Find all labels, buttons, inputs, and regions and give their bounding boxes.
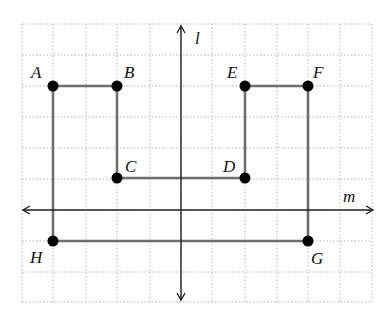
axis-label-m: m	[343, 187, 355, 206]
axis-l: l	[177, 26, 200, 300]
label-H: H	[29, 248, 44, 267]
point-B	[112, 81, 123, 92]
point-F	[303, 81, 314, 92]
label-D: D	[222, 157, 236, 176]
point-C	[112, 173, 123, 184]
label-B: B	[124, 63, 135, 82]
reflection-diagram: lm ABCDEFGH	[0, 0, 391, 315]
vertex-labels: ABCDEFGH	[29, 63, 324, 268]
label-C: C	[125, 157, 137, 176]
axis-label-l: l	[195, 29, 200, 48]
point-E	[240, 81, 251, 92]
label-G: G	[311, 249, 323, 268]
point-A	[48, 81, 59, 92]
label-F: F	[312, 63, 324, 82]
axis-m: m	[23, 187, 373, 214]
label-A: A	[30, 63, 42, 82]
point-H	[48, 236, 59, 247]
point-D	[240, 173, 251, 184]
point-G	[303, 236, 314, 247]
label-E: E	[226, 63, 238, 82]
